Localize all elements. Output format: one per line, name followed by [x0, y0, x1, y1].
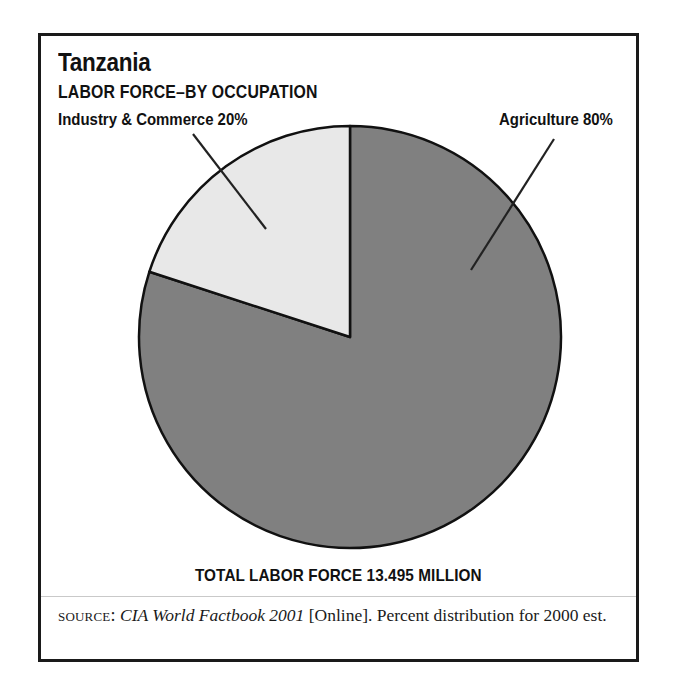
source-work-title: CIA World Factbook 2001 [120, 605, 304, 625]
source-rest: [Online]. Percent distribution for 2000 … [309, 605, 607, 625]
slice-label-industry: Industry & Commerce 20% [58, 110, 248, 130]
total-labor-force-text: TOTAL LABOR FORCE 13.495 MILLION [195, 566, 482, 586]
page-title: Tanzania [58, 48, 150, 77]
chart-subtitle: LABOR FORCE–BY OCCUPATION [58, 82, 318, 103]
slice-label-agriculture: Agriculture 80% [499, 110, 613, 130]
source-divider [41, 596, 636, 597]
pie-chart-figure: Tanzania LABOR FORCE–BY OCCUPATION Indus… [0, 0, 674, 700]
source-kicker: SOURCE: [58, 605, 116, 625]
source-note: SOURCE: CIA World Factbook 2001 [Online]… [58, 604, 624, 628]
total-labor-force-caption: TOTAL LABOR FORCE 13.495 MILLION [41, 566, 636, 586]
